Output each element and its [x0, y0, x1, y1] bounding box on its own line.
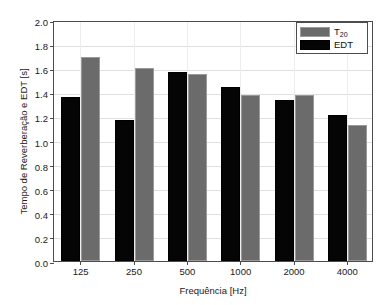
x-tick-label: 250 [126, 266, 142, 277]
y-gridline [54, 190, 372, 191]
legend-swatch-t20 [300, 27, 330, 37]
y-tick-label: 0.0 [35, 258, 48, 269]
legend-item-edt: EDT [300, 38, 364, 51]
y-tick-mark [50, 214, 54, 215]
y-tick-label: 0.4 [35, 209, 48, 220]
y-tick-mark [50, 142, 54, 143]
x-tick-mark [187, 261, 188, 265]
y-tick-mark [50, 70, 54, 71]
y-axis-title: Tempo de Reverberação e EDT [s] [16, 21, 32, 262]
y-tick-label: 0.6 [35, 185, 48, 196]
y-gridline [54, 118, 372, 119]
x-tick-mark [347, 261, 348, 265]
y-tick-label: 1.8 [35, 41, 48, 52]
x-tick-label: 500 [179, 266, 195, 277]
y-tick-label: 2.0 [35, 17, 48, 28]
y-tick-mark [50, 238, 54, 239]
legend-label-t20: T20 [334, 27, 348, 37]
y-tick-mark [50, 118, 54, 119]
x-tick-mark [294, 261, 295, 265]
y-tick-mark [50, 263, 54, 264]
x-tick-label: 4000 [337, 266, 358, 277]
legend-item-t20: T20 [300, 25, 364, 38]
y-tick-label: 0.2 [35, 233, 48, 244]
bar-edt-500 [168, 72, 187, 261]
plot-area: 0.00.20.40.60.81.01.21.41.61.82.01252505… [53, 21, 373, 262]
y-gridline [54, 142, 372, 143]
legend-swatch-edt [300, 40, 330, 50]
x-tick-label: 1000 [230, 266, 251, 277]
y-tick-mark [50, 22, 54, 23]
x-axis-title: Frequência [Hz] [53, 285, 373, 296]
bar-edt-4000 [328, 115, 347, 261]
y-tick-mark [50, 166, 54, 167]
y-tick-label: 1.6 [35, 65, 48, 76]
bar-edt-2000 [275, 100, 294, 261]
bar-t20-4000 [348, 125, 367, 261]
legend-label-edt: EDT [334, 40, 353, 50]
y-tick-mark [50, 190, 54, 191]
x-tick-mark [134, 261, 135, 265]
bar-t20-500 [188, 74, 207, 261]
y-tick-label: 1.4 [35, 89, 48, 100]
bar-edt-250 [115, 120, 134, 261]
chart-figure: Tempo de Reverberação e EDT [s] 0.00.20.… [0, 0, 381, 305]
x-tick-label: 2000 [283, 266, 304, 277]
y-tick-label: 1.0 [35, 137, 48, 148]
y-tick-mark [50, 94, 54, 95]
x-tick-label: 125 [73, 266, 89, 277]
x-tick-mark [240, 261, 241, 265]
y-tick-label: 1.2 [35, 113, 48, 124]
y-tick-label: 0.8 [35, 161, 48, 172]
y-gridline [54, 166, 372, 167]
y-gridline [54, 214, 372, 215]
bar-edt-1000 [221, 87, 240, 261]
bar-t20-2000 [295, 95, 314, 261]
y-tick-mark [50, 46, 54, 47]
bar-t20-250 [135, 68, 154, 261]
y-gridline [54, 94, 372, 95]
x-tick-mark [80, 261, 81, 265]
y-gridline [54, 70, 372, 71]
bar-t20-125 [81, 57, 100, 261]
bar-t20-1000 [241, 95, 260, 261]
y-gridline [54, 238, 372, 239]
chart-legend: T20 EDT [296, 22, 368, 54]
bar-edt-125 [61, 97, 80, 261]
